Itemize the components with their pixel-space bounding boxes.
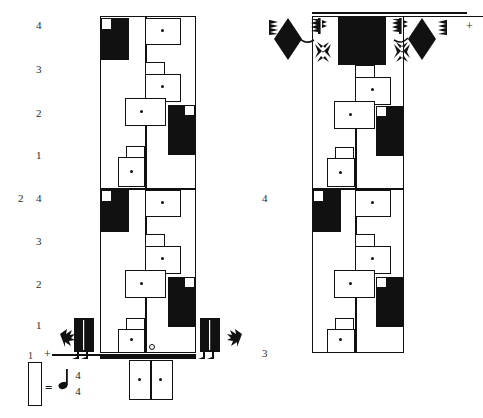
block-ornament-left bbox=[60, 318, 106, 360]
left-baseline-label-1: 1 bbox=[28, 350, 33, 361]
right-beat-label-3: 3 bbox=[262, 348, 268, 359]
right-white-notch-m2-right bbox=[376, 277, 387, 288]
left-white-notch-m1 bbox=[101, 18, 112, 30]
block-ornament-right bbox=[196, 318, 242, 360]
left-dot-m2-b2 bbox=[140, 282, 143, 285]
right-dot-m2-b1 bbox=[339, 338, 342, 341]
left-dot-m2-b1 bbox=[130, 338, 133, 341]
bowtie-fringe-left-outer bbox=[268, 14, 312, 64]
right-dot-m1-b2 bbox=[339, 171, 342, 174]
right-dot-m1-b4 bbox=[371, 88, 374, 91]
right-cell-m2-b2 bbox=[334, 270, 375, 298]
left-baseline-thick bbox=[100, 356, 196, 359]
left-white-notch-m2 bbox=[101, 190, 112, 202]
left-beat-label-3a: 3 bbox=[36, 64, 42, 75]
left-cell-m2-b1 bbox=[118, 329, 145, 353]
left-beat-label-4b: 4 bbox=[36, 193, 42, 204]
right-cell-m1-b3 bbox=[334, 101, 375, 129]
figure-canvas: 4 3 2 1 2 4 3 2 1 1 + bbox=[0, 0, 483, 418]
right-white-notch-m2 bbox=[313, 190, 324, 202]
right-top-plus: + bbox=[466, 20, 473, 32]
cross-mark-left bbox=[313, 42, 333, 62]
left-dot-m1-b3 bbox=[161, 85, 164, 88]
left-tail-box-divider bbox=[150, 360, 152, 400]
left-dot-m1-b1 bbox=[130, 170, 133, 173]
left-dot-m2-b3 bbox=[161, 257, 164, 260]
left-beat-label-4a: 4 bbox=[36, 20, 42, 31]
left-beat-label-2b: 2 bbox=[36, 279, 42, 290]
bowtie-fringe-left-inner bbox=[311, 18, 329, 36]
left-tail-dot-b bbox=[159, 378, 162, 381]
left-beat-label-2a: 2 bbox=[36, 108, 42, 119]
left-beat-label-1a: 1 bbox=[36, 150, 42, 161]
bowtie-fringe-right-outer bbox=[404, 14, 452, 64]
left-dot-m1-b4 bbox=[161, 29, 164, 32]
left-beat-label-3b: 3 bbox=[36, 236, 42, 247]
left-circle-marker bbox=[149, 344, 155, 350]
left-white-notch-m2-right bbox=[184, 277, 195, 288]
time-signature-top: 4 bbox=[72, 370, 84, 381]
right-dot-m2-b4 bbox=[371, 201, 374, 204]
legend-note-box bbox=[28, 362, 42, 406]
right-black-header-block bbox=[338, 17, 386, 65]
right-cell-m2-b1 bbox=[327, 329, 355, 353]
left-cell-m1-b2 bbox=[125, 98, 166, 126]
left-dot-m1-b2 bbox=[140, 110, 143, 113]
left-dot-m2-b4 bbox=[161, 201, 164, 204]
left-beat-label-1b: 1 bbox=[36, 320, 42, 331]
time-signature-bottom: 4 bbox=[72, 386, 84, 397]
right-dot-m2-b3 bbox=[371, 257, 374, 260]
right-dot-m2-b2 bbox=[349, 282, 352, 285]
quarter-note-icon bbox=[57, 368, 71, 390]
right-white-notch-m1 bbox=[376, 106, 387, 117]
right-dot-m1-b3 bbox=[349, 113, 352, 116]
left-tail-dot-a bbox=[138, 378, 141, 381]
left-baseline-plus: + bbox=[44, 348, 51, 360]
left-measure-marker-2: 2 bbox=[18, 193, 24, 204]
left-white-notch-m1-right bbox=[184, 105, 195, 116]
right-beat-label-4: 4 bbox=[262, 193, 268, 204]
legend-equals: = bbox=[45, 381, 52, 394]
left-cell-m2-b2 bbox=[125, 270, 166, 298]
